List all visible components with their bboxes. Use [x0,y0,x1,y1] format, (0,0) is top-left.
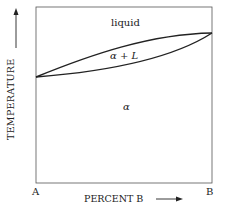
x-right-label: B [206,186,213,197]
x-arrow-head-icon [176,197,183,202]
region-liquid-label: liquid [111,17,140,28]
phase-diagram [0,0,225,213]
y-arrow-head-icon [14,8,19,15]
plot-frame [36,7,212,183]
y-axis-label: TEMPERATURE [5,58,16,140]
region-two-phase-label: α + L [110,50,138,61]
region-solid-label: α [123,101,130,112]
x-axis-label: PERCENT B [84,193,143,204]
x-left-label: A [32,186,39,197]
